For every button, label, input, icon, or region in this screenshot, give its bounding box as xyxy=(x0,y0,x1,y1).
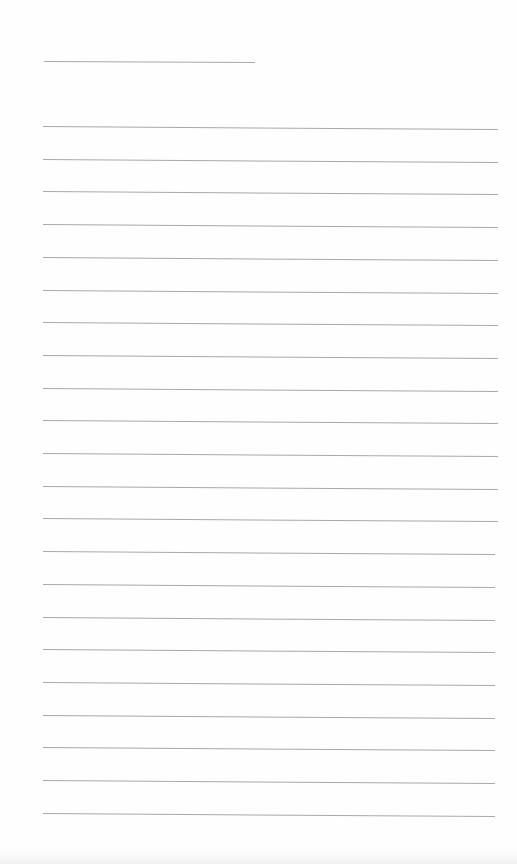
writing-line xyxy=(43,649,495,653)
writing-line xyxy=(43,290,498,294)
writing-line xyxy=(43,682,495,686)
lined-page xyxy=(0,0,517,864)
writing-line xyxy=(43,813,495,817)
writing-line xyxy=(43,224,498,228)
writing-line xyxy=(43,518,498,522)
writing-line xyxy=(43,257,498,261)
writing-line xyxy=(43,355,498,359)
writing-line xyxy=(43,486,498,490)
writing-line xyxy=(43,126,498,130)
writing-line xyxy=(43,453,498,457)
title-rule xyxy=(44,61,255,63)
writing-line xyxy=(43,551,495,555)
writing-line xyxy=(43,747,495,751)
writing-line xyxy=(43,388,498,392)
page-bottom-edge xyxy=(0,850,517,864)
writing-line xyxy=(43,159,498,163)
writing-line xyxy=(43,322,498,326)
writing-line xyxy=(43,617,495,621)
writing-line xyxy=(43,191,498,195)
writing-line xyxy=(43,780,495,784)
writing-line xyxy=(43,584,495,588)
writing-line xyxy=(43,420,498,424)
writing-line xyxy=(43,715,495,719)
